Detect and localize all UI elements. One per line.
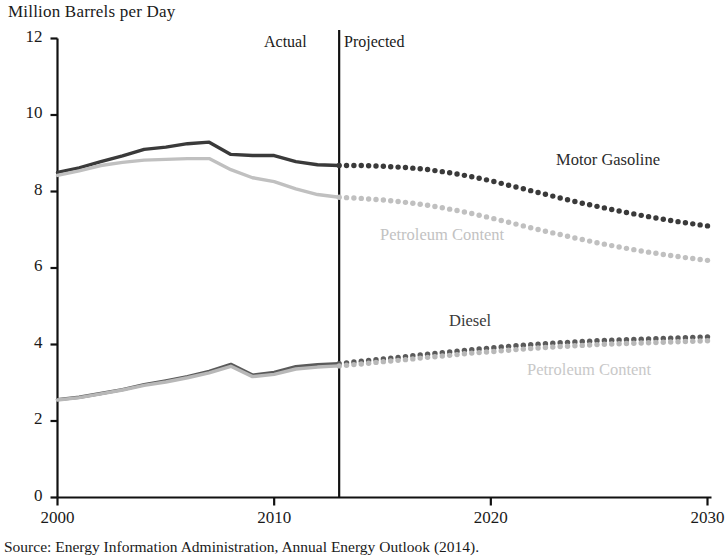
x-tick-label-2030: 2030 (673, 508, 725, 528)
series-label-gasoline-petroleum-content: Petroleum Content (380, 225, 504, 245)
y-tick-label-8: 8 (3, 180, 43, 200)
series-point-projected-3 (359, 361, 364, 366)
series-point-projected-0 (572, 199, 577, 204)
series-point-projected-0 (373, 163, 378, 168)
series-point-projected-0 (344, 163, 349, 168)
series-label-diesel: Diesel (449, 311, 491, 331)
series-point-projected-3 (351, 362, 356, 367)
series-point-projected-0 (447, 170, 452, 175)
series-point-projected-1 (535, 227, 540, 232)
series-point-projected-1 (373, 197, 378, 202)
series-point-projected-0 (521, 186, 526, 191)
series-point-projected-3 (697, 338, 702, 343)
series-point-projected-3 (469, 350, 474, 355)
series-point-projected-0 (425, 167, 430, 172)
y-tick-label-12: 12 (3, 27, 43, 47)
series-point-projected-0 (440, 169, 445, 174)
series-point-projected-3 (462, 351, 467, 356)
series-point-projected-1 (513, 221, 518, 226)
series-point-projected-1 (557, 232, 562, 237)
series-point-projected-0 (587, 202, 592, 207)
series-point-projected-0 (395, 164, 400, 169)
series-point-projected-1 (661, 252, 666, 257)
series-point-projected-0 (646, 214, 651, 219)
series-point-projected-3 (639, 340, 644, 345)
series-point-projected-3 (624, 341, 629, 346)
series-point-projected-3 (513, 347, 518, 352)
y-tick-label-10: 10 (3, 103, 43, 123)
series-point-projected-3 (653, 340, 658, 345)
series-point-projected-3 (440, 353, 445, 358)
series-point-projected-0 (476, 176, 481, 181)
series-point-projected-0 (661, 217, 666, 222)
series-line-actual-3 (58, 366, 340, 400)
series-point-projected-0 (624, 210, 629, 215)
series-point-projected-0 (418, 166, 423, 171)
series-point-projected-1 (366, 196, 371, 201)
series-point-projected-0 (359, 163, 364, 168)
series-point-projected-3 (499, 348, 504, 353)
series-point-projected-1 (410, 201, 415, 206)
series-point-projected-1 (580, 237, 585, 242)
series-point-projected-3 (418, 355, 423, 360)
series-point-projected-0 (351, 163, 356, 168)
series-point-projected-1 (602, 241, 607, 246)
series-point-projected-3 (454, 352, 459, 357)
series-point-projected-3 (535, 345, 540, 350)
series-point-projected-0 (366, 163, 371, 168)
series-point-projected-1 (462, 209, 467, 214)
series-point-projected-1 (705, 258, 710, 263)
series-point-projected-3 (373, 360, 378, 365)
series-point-projected-1 (432, 204, 437, 209)
series-point-projected-1 (388, 198, 393, 203)
series-point-projected-3 (683, 339, 688, 344)
series-point-projected-3 (528, 346, 533, 351)
series-point-projected-1 (336, 195, 341, 200)
series-point-projected-3 (565, 343, 570, 348)
series-point-projected-1 (675, 254, 680, 259)
series-point-projected-1 (697, 257, 702, 262)
series-point-projected-1 (572, 235, 577, 240)
series-point-projected-0 (535, 190, 540, 195)
series-point-projected-0 (690, 221, 695, 226)
y-tick-label-2: 2 (3, 409, 43, 429)
series-point-projected-3 (410, 356, 415, 361)
series-point-projected-3 (543, 345, 548, 350)
series-point-projected-1 (499, 218, 504, 223)
series-point-projected-3 (366, 360, 371, 365)
series-point-projected-1 (381, 197, 386, 202)
series-point-projected-1 (447, 206, 452, 211)
series-point-projected-0 (631, 211, 636, 216)
series-point-projected-1 (646, 249, 651, 254)
series-point-projected-1 (594, 240, 599, 245)
series-point-projected-0 (506, 182, 511, 187)
series-point-projected-3 (344, 363, 349, 368)
series-point-projected-3 (521, 346, 526, 351)
series-point-projected-1 (344, 195, 349, 200)
series-point-projected-3 (336, 363, 341, 368)
chart-plot-area (0, 0, 725, 560)
series-point-projected-0 (683, 220, 688, 225)
series-point-projected-1 (624, 246, 629, 251)
series-point-projected-0 (381, 164, 386, 169)
series-point-projected-3 (388, 358, 393, 363)
series-point-projected-1 (653, 251, 658, 256)
series-point-projected-0 (528, 188, 533, 193)
series-point-projected-1 (565, 234, 570, 239)
series-point-projected-0 (499, 181, 504, 186)
series-point-projected-3 (395, 358, 400, 363)
series-point-projected-1 (609, 243, 614, 248)
series-point-projected-0 (602, 205, 607, 210)
series-line-actual-1 (58, 159, 340, 198)
y-tick-label-4: 4 (3, 333, 43, 353)
series-point-projected-0 (639, 213, 644, 218)
series-point-projected-3 (616, 341, 621, 346)
series-point-projected-3 (587, 342, 592, 347)
series-point-projected-0 (491, 179, 496, 184)
series-point-projected-1 (359, 196, 364, 201)
series-point-projected-1 (351, 195, 356, 200)
series-point-projected-0 (469, 174, 474, 179)
series-point-projected-0 (594, 204, 599, 209)
series-point-projected-3 (572, 343, 577, 348)
series-point-projected-3 (661, 340, 666, 345)
